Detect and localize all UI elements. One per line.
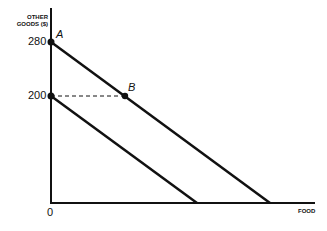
y-tick-200: 200 <box>28 89 46 101</box>
point-b-label: B <box>128 81 135 93</box>
point-a-marker <box>48 39 55 46</box>
y-axis-title-line2: GOODS ($) <box>8 21 48 28</box>
budget-line-high <box>51 42 270 203</box>
point-a-label: A <box>56 28 63 40</box>
budget-line-low <box>51 96 197 203</box>
y-tick-280: 280 <box>28 35 46 47</box>
point-200-marker <box>48 93 55 100</box>
chart-canvas <box>0 0 327 231</box>
y-axis-title: OTHER GOODS ($) <box>8 14 48 28</box>
x-axis-title: FOOD <box>298 208 315 214</box>
point-b-marker <box>122 93 128 99</box>
y-axis-title-line1: OTHER <box>8 14 48 21</box>
x-tick-0: 0 <box>47 206 53 218</box>
